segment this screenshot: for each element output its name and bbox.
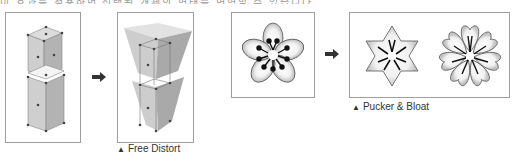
right-arrow-icon — [325, 49, 339, 59]
pucker-bloat-before-panel — [231, 12, 315, 98]
pucker-bloat-after-panel — [349, 12, 510, 98]
triangle-marker-icon: ▲ — [352, 103, 360, 112]
flower-illustration — [232, 13, 314, 97]
bloat-flower-shape — [439, 26, 502, 87]
right-arrow-icon — [92, 72, 106, 82]
triangle-marker-icon: ▲ — [117, 145, 125, 154]
cut-off-text-line: 이 효과를 적용하면 선택된 개체의 형태를 변형할 수 있습니다 — [0, 0, 513, 4]
pucker-bloat-illustration — [350, 13, 509, 97]
caption-pucker-bloat: ▲Pucker & Bloat — [352, 101, 429, 112]
free-distort-before-panel — [5, 12, 81, 143]
pucker-star-shape — [366, 26, 418, 86]
caption-pucker-bloat-text: Pucker & Bloat — [363, 101, 429, 112]
free-distort-after-panel — [117, 12, 194, 143]
distorted-column-illustration — [118, 13, 193, 142]
caption-free-distort: ▲Free Distort — [117, 143, 180, 154]
caption-free-distort-text: Free Distort — [128, 143, 180, 154]
column-illustration — [6, 13, 80, 142]
